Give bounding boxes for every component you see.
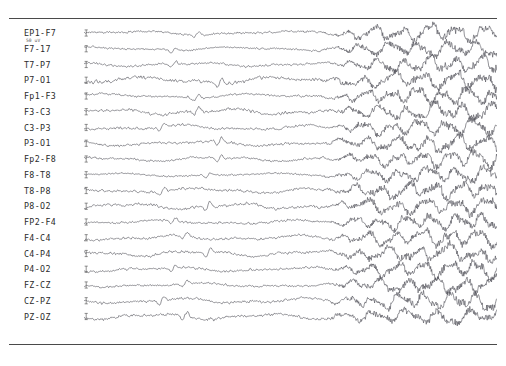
scale-annotation: 50 uV bbox=[26, 38, 40, 43]
channel-label-ep1-f7: EP1-F7 bbox=[24, 28, 56, 38]
calibration-mark bbox=[85, 156, 88, 162]
calibration-mark bbox=[85, 124, 88, 130]
eeg-trace-f7-17 bbox=[84, 39, 497, 59]
eeg-trace-f3-c3 bbox=[84, 100, 497, 122]
eeg-trace-p3-o1 bbox=[84, 132, 497, 154]
channel-label-fp2-f4: FP2-F4 bbox=[24, 217, 56, 227]
channel-label-fp2-f8: Fp2-F8 bbox=[24, 154, 56, 164]
channel-label-f3-c3: F3-C3 bbox=[24, 107, 51, 117]
eeg-trace-area bbox=[84, 18, 497, 345]
eeg-trace-fp2-f8 bbox=[84, 149, 497, 171]
eeg-trace-ep1-f7 bbox=[84, 22, 497, 44]
channel-label-t8-p8: T8-P8 bbox=[24, 186, 51, 196]
channel-label-f8-t8: F8-T8 bbox=[24, 170, 51, 180]
eeg-trace-svg bbox=[84, 18, 497, 345]
eeg-trace-t8-p8 bbox=[84, 180, 497, 201]
eeg-trace-f4-c4 bbox=[84, 228, 497, 250]
channel-label-p7-o1: P7-O1 bbox=[24, 75, 51, 85]
channel-label-f7-17: F7-17 bbox=[24, 44, 51, 54]
channel-label-f4-c4: F4-C4 bbox=[24, 233, 51, 243]
channel-label-p3-o1: P3-O1 bbox=[24, 138, 51, 148]
calibration-mark bbox=[85, 61, 88, 67]
eeg-trace-cz-pz bbox=[84, 290, 497, 311]
eeg-trace-fp2-f4 bbox=[84, 212, 497, 233]
channel-label-cz-pz: CZ-PZ bbox=[24, 296, 51, 306]
channel-label-fz-cz: FZ-CZ bbox=[24, 280, 51, 290]
eeg-trace-f8-t8 bbox=[84, 165, 497, 184]
calibration-mark bbox=[85, 282, 88, 288]
eeg-trace-p8-o2 bbox=[84, 197, 497, 218]
channel-label-p4-o2: P4-O2 bbox=[24, 264, 51, 274]
channel-label-c3-p3: C3-P3 bbox=[24, 123, 51, 133]
calibration-mark bbox=[85, 187, 88, 193]
channel-label-p8-o2: P8-O2 bbox=[24, 201, 51, 211]
channel-label-column: EP1-F750 uVF7-17T7-P7P7-O1Fp1-F3F3-C3C3-… bbox=[0, 18, 80, 345]
channel-label-t7-p7: T7-P7 bbox=[24, 60, 51, 70]
eeg-figure: EP1-F750 uVF7-17T7-P7P7-O1Fp1-F3F3-C3C3-… bbox=[0, 0, 506, 366]
channel-label-fp1-f3: Fp1-F3 bbox=[24, 91, 56, 101]
channel-label-c4-p4: C4-P4 bbox=[24, 249, 51, 259]
calibration-mark bbox=[85, 250, 88, 256]
calibration-mark bbox=[85, 109, 88, 115]
calibration-mark bbox=[85, 93, 88, 99]
eeg-trace-fz-cz bbox=[84, 274, 497, 295]
eeg-trace-p7-o1 bbox=[84, 69, 497, 93]
eeg-trace-pz-oz bbox=[84, 306, 497, 326]
calibration-mark bbox=[85, 219, 88, 225]
eeg-trace-c3-p3 bbox=[84, 115, 497, 137]
channel-label-pz-oz: PZ-OZ bbox=[24, 312, 51, 322]
